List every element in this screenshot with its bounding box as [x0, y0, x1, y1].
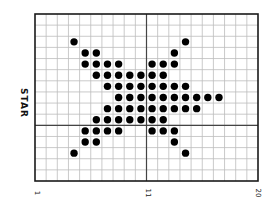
data-point [115, 105, 122, 112]
data-point [70, 38, 77, 45]
data-point [171, 105, 178, 112]
data-point [81, 138, 88, 145]
y-axis-label-text: STAR [19, 88, 29, 118]
data-point [182, 94, 189, 101]
data-point [160, 127, 167, 134]
data-point [93, 138, 100, 145]
data-point [93, 127, 100, 134]
data-point [115, 60, 122, 67]
data-point [148, 105, 155, 112]
data-point [115, 116, 122, 123]
x-tick-label: 11 [144, 189, 152, 198]
data-point [204, 94, 211, 101]
x-tick-label: 1 [33, 191, 41, 195]
data-point [160, 105, 167, 112]
data-point [171, 83, 178, 90]
data-point [148, 94, 155, 101]
data-point [182, 38, 189, 45]
data-point [81, 49, 88, 56]
data-point [104, 116, 111, 123]
data-point [81, 60, 88, 67]
data-point [148, 60, 155, 67]
data-point [160, 116, 167, 123]
data-point [115, 94, 122, 101]
x-tick-11: 11 [141, 186, 155, 200]
x-tick-label: 20 [254, 189, 262, 198]
data-point [70, 149, 77, 156]
data-point [182, 105, 189, 112]
data-point [137, 72, 144, 79]
data-point [160, 72, 167, 79]
data-point [126, 94, 133, 101]
data-point [160, 94, 167, 101]
data-point [104, 83, 111, 90]
data-point [171, 49, 178, 56]
x-tick-20: 20 [251, 186, 265, 200]
data-point [93, 72, 100, 79]
data-point [171, 60, 178, 67]
data-point [171, 127, 178, 134]
data-point [115, 127, 122, 134]
data-point [115, 72, 122, 79]
data-point [137, 83, 144, 90]
data-point [193, 94, 200, 101]
data-point [93, 116, 100, 123]
data-point [171, 94, 178, 101]
data-point [182, 83, 189, 90]
data-point [160, 60, 167, 67]
data-point [104, 60, 111, 67]
data-point [137, 105, 144, 112]
data-point [81, 127, 88, 134]
data-point [104, 72, 111, 79]
data-point [137, 116, 144, 123]
data-point [171, 138, 178, 145]
data-point [93, 49, 100, 56]
data-point [104, 105, 111, 112]
data-point [126, 105, 133, 112]
data-point [148, 116, 155, 123]
data-point [193, 105, 200, 112]
data-point [126, 83, 133, 90]
data-point [148, 72, 155, 79]
data-point [115, 83, 122, 90]
y-axis-label: STAR [14, 88, 34, 118]
data-point [104, 127, 111, 134]
x-tick-1: 1 [30, 186, 44, 200]
data-point [148, 127, 155, 134]
data-point [215, 94, 222, 101]
data-point [160, 83, 167, 90]
data-point [137, 94, 144, 101]
data-point [148, 83, 155, 90]
data-point [126, 72, 133, 79]
data-point [93, 60, 100, 67]
data-point [126, 116, 133, 123]
data-point [182, 149, 189, 156]
star-grid-chart [0, 0, 274, 211]
